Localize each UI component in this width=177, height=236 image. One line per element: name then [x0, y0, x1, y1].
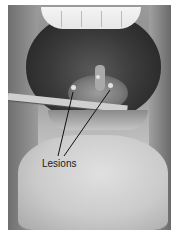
figure: Lesions: [0, 0, 177, 236]
lesions-label: Lesions: [42, 158, 76, 170]
annotation-arrows: [0, 0, 177, 236]
